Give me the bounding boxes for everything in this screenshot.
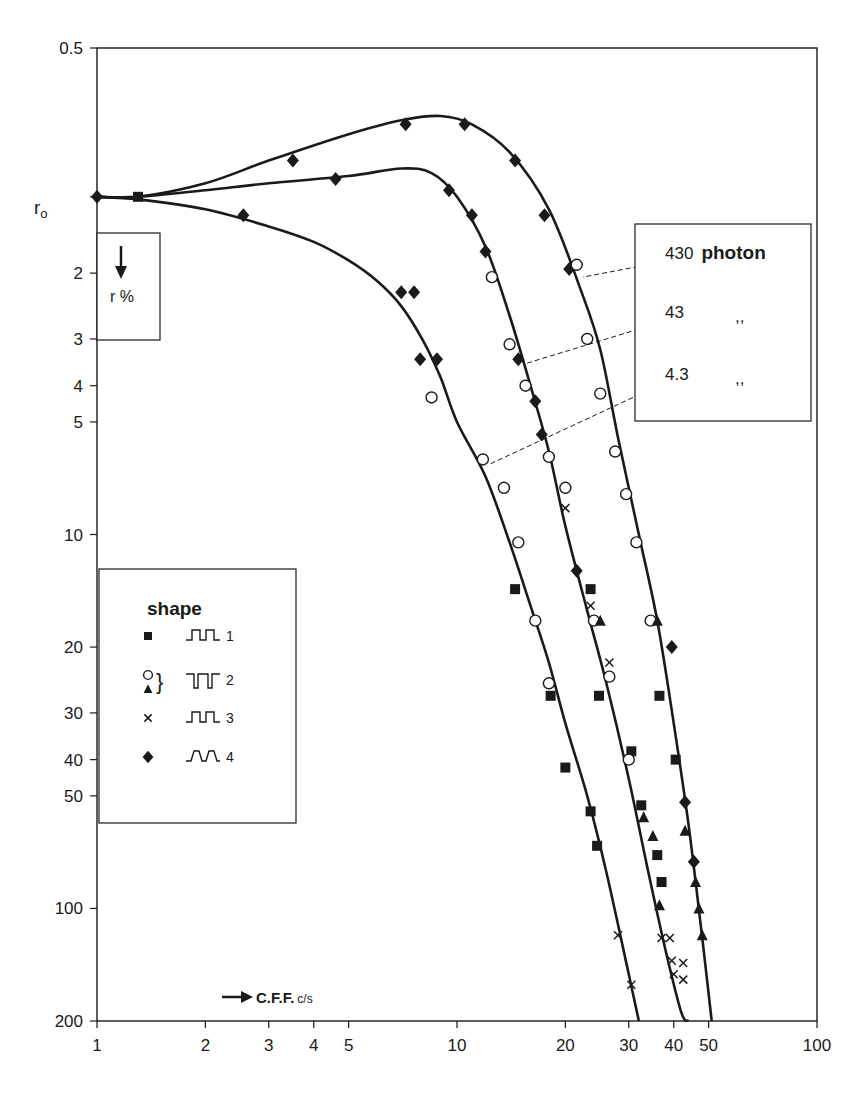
diamond-marker bbox=[679, 795, 691, 809]
square-marker bbox=[657, 877, 667, 887]
diamond-marker bbox=[287, 154, 299, 168]
circle-marker bbox=[486, 272, 497, 283]
y-tick-label: 0.5 bbox=[59, 39, 83, 58]
legend: shape 1}234 bbox=[99, 569, 296, 823]
circle-marker bbox=[631, 537, 642, 548]
brace: } bbox=[156, 669, 163, 694]
y-axis-ticks: 0.523451020304050100200 bbox=[55, 39, 97, 1031]
annotation-4.3: 4.3 bbox=[665, 365, 689, 384]
x-tick-label: 3 bbox=[264, 1036, 273, 1055]
square-marker bbox=[586, 806, 596, 816]
ditto-mark-43: ,, bbox=[735, 307, 744, 326]
y-tick-label: 50 bbox=[64, 787, 83, 806]
diamond-marker bbox=[529, 394, 541, 408]
x-tick-label: 30 bbox=[619, 1036, 638, 1055]
circle-marker bbox=[426, 392, 437, 403]
y-tick-label: 10 bbox=[64, 526, 83, 545]
diamond-marker bbox=[414, 352, 426, 366]
diamond-marker bbox=[571, 564, 583, 578]
circle-marker bbox=[604, 671, 615, 682]
triangle-marker bbox=[690, 876, 701, 887]
circle-marker bbox=[498, 482, 509, 493]
legend-entry-number: 1 bbox=[226, 628, 234, 644]
x-tick-label: 50 bbox=[699, 1036, 718, 1055]
diamond-marker bbox=[395, 285, 407, 299]
circle-marker bbox=[144, 671, 153, 680]
y-tick-label: 40 bbox=[64, 751, 83, 770]
square-marker bbox=[560, 763, 570, 773]
square-marker bbox=[546, 691, 556, 701]
diamond-marker bbox=[408, 285, 420, 299]
y-tick-label: 4 bbox=[74, 377, 83, 396]
y-tick-label: 20 bbox=[64, 638, 83, 657]
y-tick-label: 30 bbox=[64, 704, 83, 723]
x-axis-label: C.F.F.c/s bbox=[222, 989, 313, 1006]
square-marker bbox=[144, 632, 152, 640]
circle-marker bbox=[595, 388, 606, 399]
x-tick-label: 100 bbox=[803, 1036, 831, 1055]
triangle-marker bbox=[697, 929, 708, 940]
y-tick-label: 2 bbox=[74, 264, 83, 283]
y-tick-label: 200 bbox=[55, 1012, 83, 1031]
data-points bbox=[91, 117, 708, 988]
annotation-43: 43 bbox=[665, 303, 684, 322]
arrow-right-icon bbox=[222, 991, 253, 1003]
circle-marker bbox=[530, 615, 541, 626]
square-marker bbox=[671, 755, 681, 765]
square-marker bbox=[594, 691, 604, 701]
legend-entry-number: 4 bbox=[226, 749, 234, 765]
square-marker bbox=[133, 192, 143, 202]
circle-marker bbox=[513, 537, 524, 548]
cff-chart: 123451020304050100 0.5234510203040501002… bbox=[0, 0, 868, 1100]
annotation-box: 430photon 43 ,, 4.3 ,, bbox=[635, 224, 811, 421]
x-tick-label: 10 bbox=[448, 1036, 467, 1055]
y-tick-label: 5 bbox=[74, 413, 83, 432]
square-marker bbox=[652, 850, 662, 860]
circle-marker bbox=[621, 489, 632, 500]
y-axis-label: r % bbox=[110, 288, 134, 305]
square-marker bbox=[510, 584, 520, 594]
x-tick-label: 2 bbox=[201, 1036, 210, 1055]
plot-border bbox=[97, 48, 817, 1021]
triangle-marker bbox=[647, 830, 658, 841]
diamond-marker bbox=[688, 855, 700, 869]
square-marker bbox=[592, 841, 602, 851]
annotation-430: 430photon bbox=[665, 242, 766, 263]
circle-marker bbox=[543, 678, 554, 689]
square-marker bbox=[586, 584, 596, 594]
x-tick-label: 4 bbox=[309, 1036, 318, 1055]
diamond-marker bbox=[330, 172, 342, 186]
y-tick-label: 100 bbox=[55, 899, 83, 918]
x-tick-label: 1 bbox=[92, 1036, 101, 1055]
y-axis-label-box: r % bbox=[97, 233, 160, 340]
triangle-marker bbox=[638, 811, 649, 822]
square-marker bbox=[654, 691, 664, 701]
ditto-mark-4.3: ,, bbox=[735, 369, 744, 388]
triangle-marker bbox=[693, 902, 704, 913]
x-tick-label: 20 bbox=[556, 1036, 575, 1055]
diamond-marker bbox=[431, 352, 443, 366]
legend-entry-number: 2 bbox=[226, 672, 234, 688]
x-tick-label: 5 bbox=[344, 1036, 353, 1055]
circle-marker bbox=[571, 259, 582, 270]
square-marker bbox=[636, 800, 646, 810]
circle-marker bbox=[543, 451, 554, 462]
circle-marker bbox=[582, 333, 593, 344]
diamond-marker bbox=[443, 183, 455, 197]
legend-title: shape bbox=[147, 598, 202, 619]
y-tick-label: 3 bbox=[74, 330, 83, 349]
x-axis-ticks: 123451020304050100 bbox=[92, 1021, 831, 1055]
circle-marker bbox=[504, 339, 515, 350]
circle-marker bbox=[520, 380, 531, 391]
x-tick-label: 40 bbox=[664, 1036, 683, 1055]
legend-entry-number: 3 bbox=[226, 710, 234, 726]
y-reference-label: ro bbox=[34, 197, 48, 221]
circle-marker bbox=[477, 454, 488, 465]
circle-marker bbox=[623, 754, 634, 765]
circle-marker bbox=[560, 482, 571, 493]
diamond-marker bbox=[666, 640, 678, 654]
circle-marker bbox=[610, 446, 621, 457]
plot-frame bbox=[97, 48, 817, 1021]
svg-text:C.F.F.c/s: C.F.F.c/s bbox=[256, 989, 313, 1006]
